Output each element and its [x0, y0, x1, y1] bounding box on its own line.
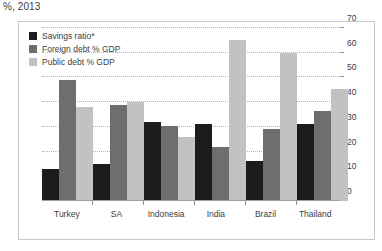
bar — [246, 161, 263, 201]
bar — [331, 89, 348, 201]
bar — [144, 122, 161, 201]
bar — [229, 40, 246, 201]
bar-group — [297, 28, 348, 201]
bar — [127, 102, 144, 201]
x-axis-label-turkey: Turkey — [42, 209, 92, 219]
bar-group — [144, 28, 195, 201]
bar-group — [42, 28, 93, 201]
x-axis-label-india: India — [191, 209, 241, 219]
y-axis-tick-label: 60 — [347, 38, 356, 48]
x-axis-labels: TurkeySAIndonesiaIndiaBrazilThailand — [42, 209, 340, 219]
y-axis-tick-label: 20 — [347, 137, 356, 147]
bar-group — [93, 28, 144, 201]
bar — [280, 53, 297, 201]
bar — [178, 137, 195, 201]
y-axis-tick-label: 50 — [347, 62, 356, 72]
bar — [110, 105, 127, 201]
x-axis-line — [42, 200, 340, 201]
y-axis-tick-label: 10 — [347, 161, 356, 171]
bar — [93, 164, 110, 201]
bar-group — [246, 28, 297, 201]
y-axis-tick-label: 40 — [347, 87, 356, 97]
bar-group — [195, 28, 246, 201]
y-axis-tick-label: 70 — [347, 13, 356, 23]
x-axis-label-thailand: Thailand — [290, 209, 340, 219]
bar — [314, 111, 331, 201]
page-title: %, 2013 — [3, 1, 40, 12]
legend-swatch-icon — [29, 45, 37, 53]
bar — [263, 129, 280, 201]
legend-swatch-icon — [29, 32, 37, 40]
y-axis-tick-label: 30 — [347, 112, 356, 122]
bar — [195, 124, 212, 201]
chart-figure-frame: Savings ratio*Foreign debt % GDPPublic d… — [18, 21, 375, 240]
x-axis-group-tick — [92, 201, 93, 205]
x-axis-group-tick — [194, 201, 195, 205]
x-axis-group-tick — [245, 201, 246, 205]
bar — [76, 107, 93, 201]
bar — [161, 126, 178, 201]
bar — [59, 80, 76, 201]
plot-inner: 010203040506070 — [42, 28, 340, 201]
x-axis-group-tick — [296, 201, 297, 205]
bar — [212, 147, 229, 201]
bars-layer — [42, 28, 340, 201]
plot-area: 010203040506070 — [42, 28, 340, 201]
x-axis-label-brazil: Brazil — [241, 209, 291, 219]
bar — [42, 169, 59, 201]
x-axis-group-tick — [143, 201, 144, 205]
bar — [297, 124, 314, 201]
legend-swatch-icon — [29, 58, 37, 66]
x-axis-label-sa: SA — [92, 209, 142, 219]
x-axis-label-indonesia: Indonesia — [141, 209, 191, 219]
